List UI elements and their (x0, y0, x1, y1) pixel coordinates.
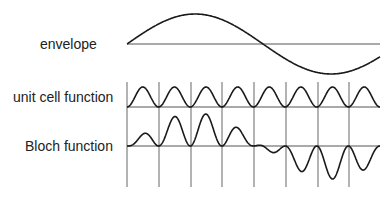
bloch-diagram (0, 0, 391, 199)
cell-boundaries (127, 82, 349, 187)
